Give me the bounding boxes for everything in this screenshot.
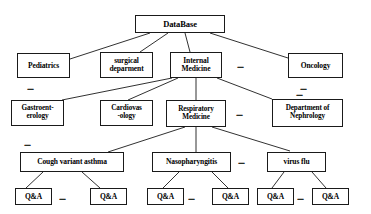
node-oncology[interactable]: Oncology	[288, 53, 343, 78]
node-qa-5-label: Q&A	[258, 193, 293, 201]
node-gastroenterology[interactable]: Gastroent- erology	[11, 100, 64, 126]
node-pediatrics[interactable]: Pediatrics	[17, 53, 70, 78]
link-flu-qa5	[272, 172, 284, 188]
node-qa-3-label: Q&A	[148, 193, 183, 201]
ellipsis-row2-middle: ......	[237, 62, 243, 70]
node-internal-medicine-label-line2: Medicine	[171, 65, 221, 73]
node-oncology-label: Oncology	[289, 62, 342, 70]
link-respiratory-cough	[108, 127, 185, 152]
node-qa-1[interactable]: Q&A	[15, 188, 52, 205]
node-qa-4-label: Q&A	[213, 193, 248, 201]
node-cough-variant-asthma-label: Cough variant asthma	[21, 158, 123, 166]
node-qa-3[interactable]: Q&A	[147, 188, 184, 205]
node-database[interactable]: DataBase	[135, 15, 225, 33]
link-root-surgical	[140, 33, 168, 52]
node-department-of-nephrology[interactable]: Department of Nephrology	[272, 99, 343, 127]
node-respiratory-medicine-label-line2: Medicine	[167, 114, 225, 122]
ellipsis-row3-middle: ......	[236, 110, 242, 118]
node-nasopharyngitis-label: Nasopharyngitis	[153, 158, 230, 166]
node-respiratory-medicine[interactable]: Respiratory Medicine	[166, 100, 226, 127]
node-cough-variant-asthma[interactable]: Cough variant asthma	[20, 152, 124, 172]
node-nasopharyngitis[interactable]: Nasopharyngitis	[152, 152, 231, 172]
link-root-internal	[185, 33, 190, 52]
link-cough-qa2	[82, 172, 100, 188]
ellipsis-qa-group-3: ......	[297, 194, 303, 202]
node-qa-2-label: Q&A	[91, 193, 126, 201]
node-virus-flu[interactable]: virus flu	[267, 152, 326, 172]
ellipsis-qa-group-2: ......	[188, 194, 194, 202]
link-flu-qa6	[312, 172, 326, 188]
ellipsis-above-cough: ......	[24, 140, 30, 148]
node-qa-2[interactable]: Q&A	[90, 188, 127, 205]
node-qa-1-label: Q&A	[16, 193, 51, 201]
link-respiratory-flu	[212, 127, 290, 151]
link-cough-qa1	[26, 172, 43, 188]
node-qa-5[interactable]: Q&A	[257, 188, 294, 205]
link-naso-qa3	[163, 172, 179, 188]
node-qa-6[interactable]: Q&A	[312, 188, 349, 205]
link-internal-cardio	[128, 78, 178, 100]
node-surgical-department-label-line2: deparment	[101, 65, 152, 73]
ellipsis-row4-middle: ......	[238, 158, 244, 166]
node-database-label: DataBase	[136, 20, 224, 29]
node-cardiovasology[interactable]: Cardiovas -ology	[100, 100, 153, 126]
node-qa-4[interactable]: Q&A	[212, 188, 249, 205]
link-internal-gastro	[62, 78, 172, 100]
node-cardiovasology-label-line2: -ology	[101, 113, 152, 121]
node-internal-medicine[interactable]: Internal Medicine	[170, 52, 222, 78]
ellipsis-qa-group-1: ......	[59, 194, 65, 202]
node-surgical-department[interactable]: surgical deparment	[100, 52, 153, 78]
link-naso-qa4	[212, 172, 228, 188]
ellipsis-below-pediatrics: ......	[27, 84, 33, 92]
node-qa-6-label: Q&A	[313, 193, 348, 201]
node-pediatrics-label: Pediatrics	[18, 62, 69, 70]
hierarchy-diagram: DataBase Pediatrics surgical deparment I…	[0, 0, 371, 214]
node-gastroenterology-label-line2: erology	[12, 113, 63, 121]
node-department-of-nephrology-label-line2: Nephrology	[273, 113, 342, 121]
link-internal-nephrology	[217, 78, 272, 99]
node-virus-flu-label: virus flu	[268, 158, 325, 166]
ellipsis-above-nephrology: ......	[296, 90, 302, 98]
